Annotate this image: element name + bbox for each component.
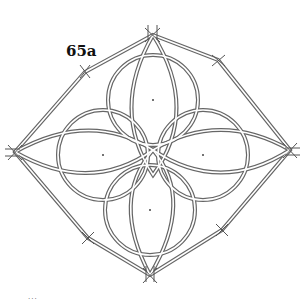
knot-figure: 65a ... [0, 0, 306, 303]
knot-diagram [0, 0, 306, 303]
figure-label: 65a [66, 42, 97, 60]
figure-caption: ... [28, 293, 38, 301]
